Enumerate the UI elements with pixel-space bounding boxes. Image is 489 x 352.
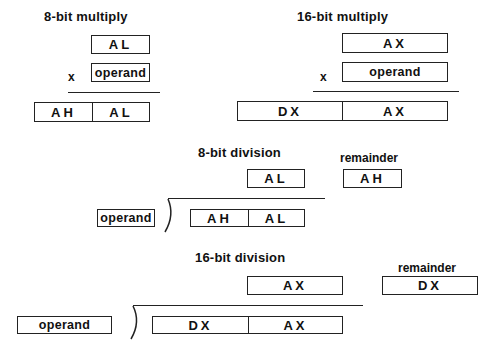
div16-remainder-label: remainder bbox=[398, 261, 456, 275]
mul16-product-line bbox=[313, 91, 459, 92]
mul16-multiply-sign: x bbox=[320, 70, 327, 84]
mul16-product-high: DX bbox=[238, 102, 342, 120]
mul8-product-register: AH AL bbox=[34, 102, 150, 122]
div16-quotient-register: AX bbox=[247, 276, 343, 295]
div16-division-line bbox=[133, 305, 363, 306]
div8-dividend-register: AH AL bbox=[190, 209, 305, 227]
div16-dividend-register: DX AX bbox=[152, 316, 343, 334]
div8-division-bracket-icon bbox=[160, 198, 176, 234]
div16-title: 16-bit division bbox=[195, 250, 285, 265]
div16-dividend-low: AX bbox=[248, 317, 342, 333]
mul16-product-low: AX bbox=[342, 102, 447, 120]
mul8-product-high: AH bbox=[35, 103, 92, 121]
mul8-multiply-sign: x bbox=[68, 70, 75, 84]
mul16-operand: operand bbox=[342, 62, 448, 82]
mul8-multiplicand-register: AL bbox=[91, 35, 150, 54]
div8-remainder-register: AH bbox=[343, 169, 402, 188]
div8-divisor-operand: operand bbox=[97, 209, 155, 227]
div8-dividend-low: AL bbox=[248, 210, 304, 226]
div16-divisor-operand: operand bbox=[17, 316, 112, 334]
div8-quotient-register: AL bbox=[247, 169, 305, 188]
mul8-operand: operand bbox=[91, 63, 150, 82]
mul8-product-low: AL bbox=[92, 103, 149, 121]
mul8-product-line bbox=[68, 92, 160, 93]
div16-dividend-high: DX bbox=[153, 317, 248, 333]
div16-remainder-register: DX bbox=[382, 276, 478, 295]
div8-division-line bbox=[168, 198, 325, 199]
mul16-product-register: DX AX bbox=[237, 101, 448, 121]
mul8-title: 8-bit multiply bbox=[44, 9, 128, 24]
div8-remainder-label: remainder bbox=[340, 151, 398, 165]
div16-division-bracket-icon bbox=[127, 305, 143, 341]
mul16-multiplicand-register: AX bbox=[342, 33, 448, 53]
div8-title: 8-bit division bbox=[198, 145, 281, 160]
div8-dividend-high: AH bbox=[191, 210, 248, 226]
mul16-title: 16-bit multiply bbox=[297, 9, 388, 24]
